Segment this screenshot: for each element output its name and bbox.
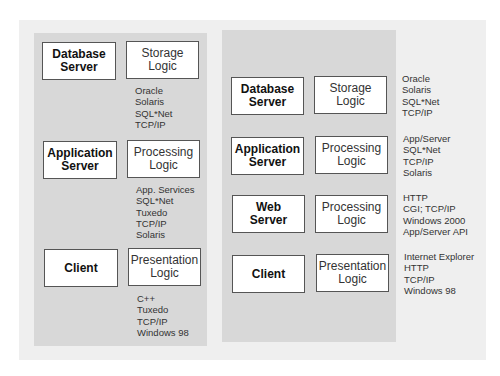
left-database-notes: Oracle Solaris SQL*Net TCP/IP: [135, 85, 173, 130]
left-application-server-box: Application Server: [43, 141, 117, 179]
left-database-server-box: Database Server: [42, 42, 116, 80]
right-presentation-logic-box: Presentation Logic: [316, 254, 389, 292]
left-processing-logic-box: Processing Logic: [127, 140, 200, 178]
right-database-notes: Oracle Solaris SQL*Net TCP/IP: [402, 73, 440, 118]
left-storage-logic-box: Storage Logic: [126, 41, 199, 79]
right-storage-logic-box: Storage Logic: [314, 76, 387, 114]
right-client-notes: Internet Explorer HTTP TCP/IP Windows 98: [404, 251, 474, 296]
right-application-server-box: Application Server: [231, 137, 304, 175]
left-client-box: Client: [44, 249, 118, 287]
right-application-notes: App/Server SQL*Net TCP/IP Solaris: [403, 133, 451, 178]
left-application-notes: App. Services SQL*Net Tuxedo TCP/IP Sola…: [136, 184, 195, 240]
right-web-processing-logic-box: Processing Logic: [315, 195, 388, 233]
right-processing-logic-box: Processing Logic: [315, 136, 388, 174]
left-client-notes: C++ Tuxedo TCP/IP Windows 98: [137, 293, 189, 338]
right-web-server-box: Web Server: [232, 195, 305, 233]
right-database-server-box: Database Server: [231, 77, 304, 115]
left-presentation-logic-box: Presentation Logic: [128, 248, 201, 286]
right-web-server-notes: HTTP CGI; TCP/IP Windows 2000 App/Server…: [403, 192, 468, 237]
right-client-box: Client: [232, 255, 305, 293]
